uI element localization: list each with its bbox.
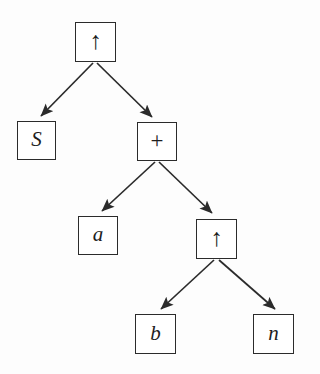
tree-node-root: ↑: [75, 22, 116, 62]
tree-node-s-label: S: [31, 129, 42, 150]
tree-node-a: a: [78, 216, 118, 255]
tree-node-b-label: b: [150, 323, 161, 344]
syntax-tree-figure: ↑ S + a ↑ b n: [0, 0, 320, 374]
tree-edges: [41, 63, 275, 309]
tree-node-n: n: [253, 314, 294, 354]
tree-node-up-second: ↑: [196, 219, 237, 259]
tree-node-a-label: a: [93, 224, 104, 245]
tree-node-up-second-label: ↑: [210, 225, 223, 250]
tree-edge: [41, 63, 93, 116]
tree-node-root-label: ↑: [89, 28, 102, 53]
tree-node-n-label: n: [268, 323, 279, 344]
tree-edge: [97, 63, 152, 117]
tree-edge: [219, 260, 275, 309]
tree-node-plus: +: [137, 122, 177, 161]
tree-node-plus-label: +: [151, 129, 164, 152]
tree-node-b: b: [135, 314, 176, 354]
tree-edge: [102, 162, 155, 211]
tree-edge: [159, 162, 212, 213]
tree-node-s: S: [17, 121, 56, 160]
tree-edge: [161, 260, 214, 309]
